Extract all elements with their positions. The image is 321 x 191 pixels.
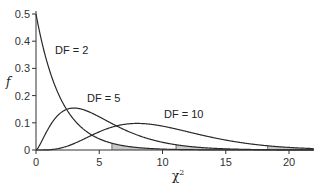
y-tick-label: 0.2 (15, 90, 30, 102)
label-df10: DF = 10 (164, 108, 203, 120)
chi-square-chart: 05101520 00.10.20.30.40.5 DF = 2 DF = 5 … (0, 0, 321, 191)
x-ticks: 05101520 (33, 150, 295, 168)
y-tick-label: 0.4 (15, 35, 30, 47)
x-tick-label: 20 (283, 156, 295, 168)
x-tick-label: 15 (220, 156, 232, 168)
y-tick-label: 0.3 (15, 62, 30, 74)
x-axis-title: χ2 (172, 168, 184, 183)
x-tick-label: 5 (96, 156, 102, 168)
y-tick-label: 0.1 (15, 117, 30, 129)
y-tick-label: 0 (24, 144, 30, 156)
y-axis-title: f (5, 75, 13, 89)
y-tick-label: 0.5 (15, 8, 30, 20)
x-tick-label: 10 (156, 156, 168, 168)
label-df2: DF = 2 (55, 44, 88, 56)
y-ticks: 00.10.20.30.40.5 (15, 8, 36, 156)
density-curves (36, 14, 314, 150)
curve-df10 (36, 123, 314, 150)
curve-df2 (36, 14, 314, 150)
label-df5: DF = 5 (87, 92, 120, 104)
x-tick-label: 0 (33, 156, 39, 168)
